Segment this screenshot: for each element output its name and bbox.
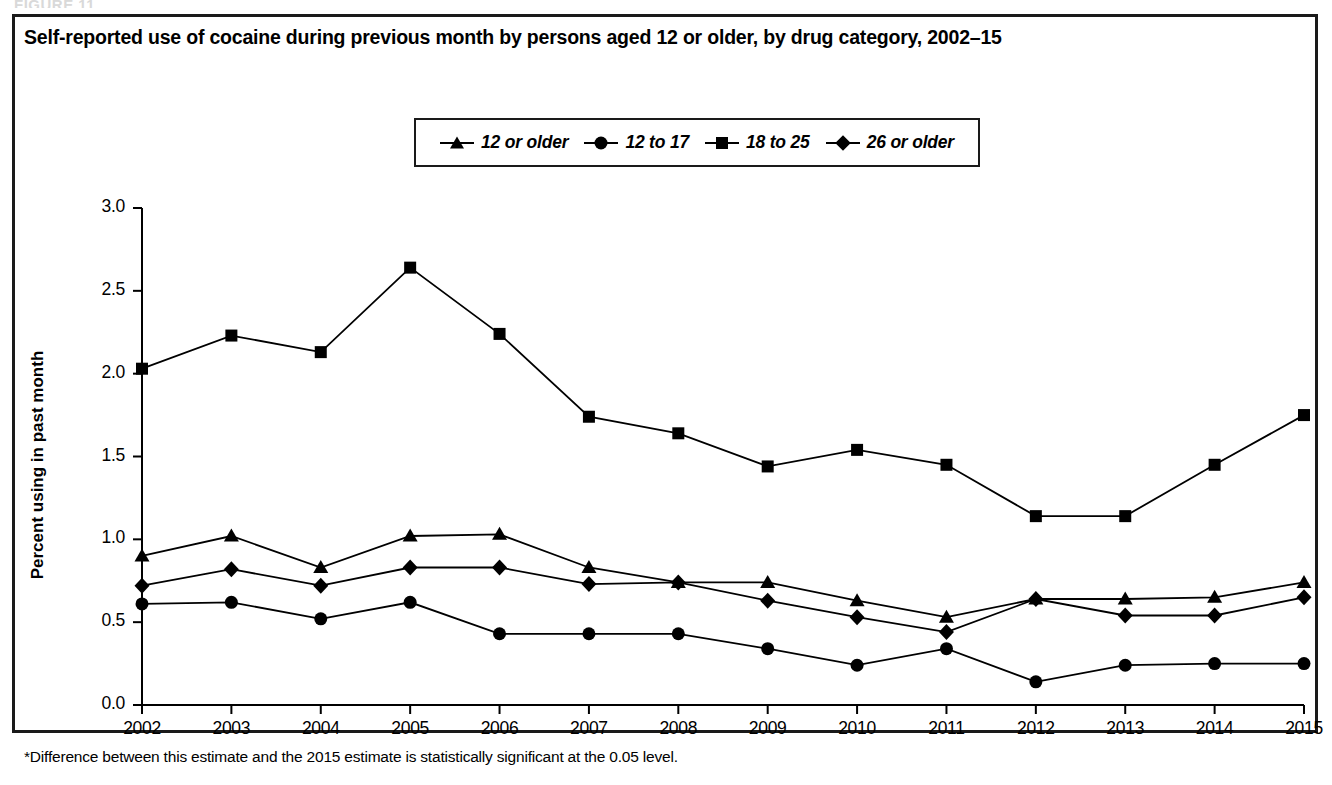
- y-tick-label: 0.0: [67, 693, 125, 714]
- legend-label: 12 to 17: [625, 132, 689, 153]
- x-tick-label: 2012: [1001, 718, 1071, 739]
- y-tick-label: 0.5: [67, 610, 125, 631]
- y-tick-label: 3.0: [67, 196, 125, 217]
- x-tick-label: 2011: [911, 718, 981, 739]
- x-tick-label: 2007: [554, 718, 624, 739]
- x-tick-label: 2002: [107, 718, 177, 739]
- legend-item-12-to-17[interactable]: 12 to 17: [584, 132, 689, 153]
- legend-label: 18 to 25: [746, 132, 810, 153]
- chart-title: Self-reported use of cocaine during prev…: [24, 26, 1002, 49]
- legend-label: 12 or older: [481, 132, 568, 153]
- x-tick-label: 2006: [465, 718, 535, 739]
- x-tick-label: 2009: [733, 718, 803, 739]
- legend-label: 26 or older: [867, 132, 954, 153]
- footnote-text: *Difference between this estimate and th…: [24, 748, 678, 766]
- x-tick-label: 2003: [196, 718, 266, 739]
- y-tick-label: 2.5: [67, 279, 125, 300]
- legend-item-26-or-older[interactable]: 26 or older: [826, 132, 954, 153]
- x-tick-label: 2004: [286, 718, 356, 739]
- y-tick-label: 1.5: [67, 445, 125, 466]
- x-tick-label: 2010: [822, 718, 892, 739]
- x-tick-label: 2014: [1180, 718, 1250, 739]
- x-tick-label: 2008: [643, 718, 713, 739]
- x-tick-label: 2015: [1269, 718, 1332, 739]
- y-tick-label: 2.0: [67, 362, 125, 383]
- figure-number-label: FIGURE 11: [14, 0, 95, 8]
- diamond-marker-icon: [826, 135, 860, 151]
- y-tick-label: 1.0: [67, 527, 125, 548]
- triangle-marker-icon: [440, 135, 474, 151]
- legend-item-18-to-25[interactable]: 18 to 25: [705, 132, 810, 153]
- chart-legend: 12 or older 12 to 17 18 to 25 26 or olde…: [414, 118, 980, 167]
- legend-item-12-or-older[interactable]: 12 or older: [440, 132, 568, 153]
- x-tick-label: 2013: [1090, 718, 1160, 739]
- y-axis-title: Percent using in past month: [28, 335, 48, 595]
- x-tick-label: 2005: [375, 718, 445, 739]
- square-marker-icon: [705, 135, 739, 151]
- circle-marker-icon: [584, 135, 618, 151]
- figure-root: FIGURE 11 Self-reported use of cocaine d…: [0, 0, 1332, 785]
